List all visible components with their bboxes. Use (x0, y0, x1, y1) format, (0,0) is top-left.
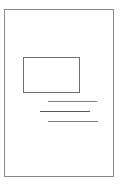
text-line-2 (40, 111, 90, 112)
image-placeholder-icon (23, 57, 80, 93)
text-line-3 (48, 121, 98, 122)
document-page-icon (4, 9, 114, 177)
text-line-1 (48, 101, 97, 102)
